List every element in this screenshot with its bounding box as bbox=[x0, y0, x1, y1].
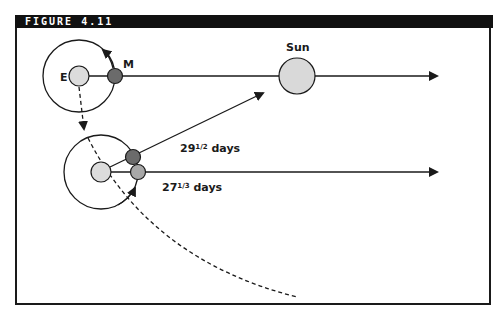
orbit-direction-arrow-top bbox=[103, 50, 113, 68]
synodic-unit: days bbox=[208, 142, 241, 155]
moon-top bbox=[108, 69, 123, 84]
sidereal-unit: days bbox=[190, 181, 223, 194]
sidereal-whole: 27 bbox=[162, 181, 177, 194]
sun bbox=[279, 58, 315, 94]
sun-label: Sun bbox=[286, 41, 310, 54]
synodic-fraction: 1/2 bbox=[195, 143, 207, 151]
moon-label: M bbox=[123, 58, 134, 71]
synodic-period-label: 291/2 days bbox=[180, 142, 241, 155]
earth-top bbox=[69, 66, 89, 86]
moon-synodic-position bbox=[126, 150, 141, 165]
sidereal-fraction: 1/3 bbox=[177, 182, 189, 190]
earth-bottom bbox=[91, 162, 111, 182]
moon-sidereal-position bbox=[131, 165, 146, 180]
moon-orbit-diagram: E M Sun 291/2 days 271/3 days bbox=[0, 0, 501, 320]
earth-path-segment bbox=[79, 87, 84, 129]
sidereal-period-label: 271/3 days bbox=[162, 181, 223, 194]
synodic-whole: 29 bbox=[180, 142, 195, 155]
earth-label: E bbox=[60, 71, 68, 84]
